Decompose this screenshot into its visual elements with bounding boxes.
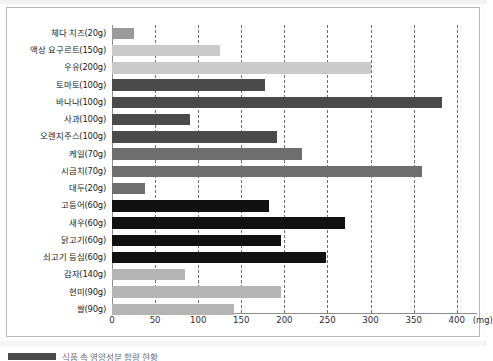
bar-category-label: 현미(90g) xyxy=(69,284,106,301)
bar xyxy=(112,252,326,263)
bar-row: 우유(200g) xyxy=(7,59,481,76)
bar xyxy=(112,45,220,56)
bar-row: 새우(60g) xyxy=(7,215,481,232)
bar-category-label: 오렌지주스(100g) xyxy=(40,128,106,145)
page-edge-top xyxy=(0,0,487,4)
bar xyxy=(112,286,281,297)
bar-row: 닭고기(60g) xyxy=(7,232,481,249)
bar xyxy=(112,148,302,159)
bar-row: 사과(100g) xyxy=(7,111,481,128)
caption-label: 식품 속 영양성분 함량 현황 xyxy=(62,351,158,361)
bar-category-label: 체다 치즈(20g) xyxy=(51,25,106,42)
x-tick-label-0: 0 xyxy=(109,315,114,325)
bar-category-label: 바나나(100g) xyxy=(56,94,106,111)
bar xyxy=(112,79,265,90)
bar-category-label: 대두(20g) xyxy=(69,180,106,197)
bar xyxy=(112,269,185,280)
bar-row: 바나나(100g) xyxy=(7,94,481,111)
bar-chart-panel: 체다 치즈(20g)액상 요구르트(150g)우유(200g)토마토(100g)… xyxy=(6,7,480,337)
bar-category-label: 시금치(70g) xyxy=(61,163,106,180)
bar-row: 쇠고기 등심(60g) xyxy=(7,249,481,266)
bar xyxy=(112,28,134,39)
bar-category-label: 감자(140g) xyxy=(64,266,106,283)
bar-category-label: 닭고기(60g) xyxy=(61,232,106,249)
bar xyxy=(112,114,190,125)
x-tick-label-150: 150 xyxy=(233,315,249,325)
bar-category-label: 케일(70g) xyxy=(69,146,106,163)
bar-row: 현미(90g) xyxy=(7,284,481,301)
bar xyxy=(112,235,281,246)
bar-category-label: 새우(60g) xyxy=(69,215,106,232)
bar-rows: 체다 치즈(20g)액상 요구르트(150g)우유(200g)토마토(100g)… xyxy=(7,25,481,313)
bar-row: 오렌지주스(100g) xyxy=(7,128,481,145)
bar-row: 감자(140g) xyxy=(7,266,481,283)
x-tick-label-300: 300 xyxy=(362,315,378,325)
bar xyxy=(112,183,145,194)
x-tick-label-250: 250 xyxy=(319,315,335,325)
bar xyxy=(112,200,269,211)
bar-row: 체다 치즈(20g) xyxy=(7,25,481,42)
x-tick-label-200: 200 xyxy=(276,315,292,325)
bar-category-label: 액상 요구르트(150g) xyxy=(30,42,106,59)
bar-row: 액상 요구르트(150g) xyxy=(7,42,481,59)
chart-caption: 식품 속 영양성분 함량 현황 xyxy=(0,348,487,361)
x-tick-label-50: 50 xyxy=(150,315,161,325)
bar xyxy=(112,304,234,315)
bar-category-label: 고등어(60g) xyxy=(61,197,106,214)
x-tick-label-400: 400 xyxy=(449,315,465,325)
x-tick-label-350: 350 xyxy=(405,315,421,325)
bar xyxy=(112,131,277,142)
bar xyxy=(112,166,422,177)
bar-row: 토마토(100g) xyxy=(7,77,481,94)
x-tick-label-100: 100 xyxy=(190,315,206,325)
x-axis-unit-label: (mg) xyxy=(473,315,493,325)
bar-category-label: 토마토(100g) xyxy=(56,77,106,94)
bar-row: 시금치(70g) xyxy=(7,163,481,180)
bar-category-label: 사과(100g) xyxy=(64,111,106,128)
bar-row: 고등어(60g) xyxy=(7,197,481,214)
bar xyxy=(112,217,345,228)
x-axis-tick-labels: 050100150200250300350400(mg) xyxy=(7,315,481,335)
bar xyxy=(112,62,371,73)
caption-legend-swatch xyxy=(8,353,56,360)
bar-category-label: 쇠고기 등심(60g) xyxy=(43,249,106,266)
bar-row: 케일(70g) xyxy=(7,146,481,163)
page-edge-bottom xyxy=(0,341,487,346)
bar-category-label: 우유(200g) xyxy=(64,59,106,76)
bar-row: 대두(20g) xyxy=(7,180,481,197)
bar xyxy=(112,97,442,108)
